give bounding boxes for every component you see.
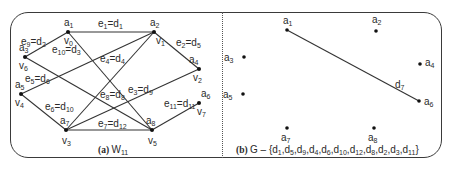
caption-left: (a) W11 xyxy=(98,144,128,156)
right-node-label-a1: a1 xyxy=(283,15,293,27)
node-label-a4: a4 xyxy=(189,54,199,66)
edge-label-e2: e2=d5 xyxy=(176,37,201,49)
node-label-a1: a1 xyxy=(64,17,74,29)
right-node-label-a6: a6 xyxy=(424,96,434,108)
node-a7 xyxy=(64,128,68,132)
node-alt-label-a3: v6 xyxy=(19,60,28,72)
edge-label-e5: e5=d6 xyxy=(25,73,50,85)
node-label-a8: a8 xyxy=(146,115,156,127)
edge-label-e11: e11=d11 xyxy=(164,98,196,110)
right-node-label-a3: a3 xyxy=(224,52,234,64)
right-node-label-a4: a4 xyxy=(425,57,435,69)
node-label-a6: a6 xyxy=(201,88,211,100)
node-a5 xyxy=(19,92,23,96)
node-a2 xyxy=(152,30,156,34)
right-node-label-a5: a5 xyxy=(223,89,233,101)
node-alt-label-a6: v7 xyxy=(197,106,206,118)
node-a4 xyxy=(197,67,201,71)
edge-label-e1: e1=d1 xyxy=(98,18,123,30)
node-a6 xyxy=(197,101,201,105)
node-alt-label-a7: v3 xyxy=(62,135,71,147)
edge-label-e8: e8=d8 xyxy=(100,89,125,101)
caption-right: (b) G – {d1,d5,d9,d4,d6,d10,d12,d8,d2,d3… xyxy=(236,144,419,156)
node-a1 xyxy=(66,30,70,34)
graph-diagram: a1v0a2v1a3v6a4v2a5v4a6v7a7v3a8v5 e1=d1e2… xyxy=(0,0,453,171)
edge-label-e3: e3=d9 xyxy=(128,84,153,96)
right-node-label-a2: a2 xyxy=(372,14,382,26)
node-alt-label-a8: v5 xyxy=(148,135,157,147)
node-a3 xyxy=(23,55,27,59)
captions: (a) W11(b) G – {d1,d5,d9,d4,d6,d10,d12,d… xyxy=(98,144,419,156)
node-alt-label-a2: v1 xyxy=(156,35,165,47)
figure-canvas: a1v0a2v1a3v6a4v2a5v4a6v7a7v3a8v5 e1=d1e2… xyxy=(0,0,453,171)
edge-label-right-d7: d7 xyxy=(395,79,405,91)
node-label-a5: a5 xyxy=(15,79,25,91)
right-node-a7 xyxy=(285,126,289,130)
edge-label-e4: e4=d4 xyxy=(100,53,125,65)
right-node-a1 xyxy=(285,28,289,32)
node-a8 xyxy=(150,128,154,132)
node-alt-label-a4: v2 xyxy=(193,72,202,84)
node-alt-label-a5: v4 xyxy=(15,97,24,109)
right-node-a4 xyxy=(418,62,422,66)
right-graph-edges: d7 xyxy=(287,30,419,101)
right-node-a2 xyxy=(374,29,378,33)
right-node-label-a8: a8 xyxy=(368,132,378,144)
edge-label-e7: e7=d12 xyxy=(98,118,127,130)
right-node-a8 xyxy=(372,126,376,130)
right-node-a3 xyxy=(242,55,246,59)
node-label-a7: a7 xyxy=(60,115,70,127)
edge-label-e9: e9=d2 xyxy=(21,36,46,48)
node-label-a2: a2 xyxy=(150,17,160,29)
edge-a1-a8 xyxy=(68,32,152,130)
left-edge-labels: e1=d1e2=d5e3=d9e4=d4e5=d6e6=d10e7=d12e8=… xyxy=(21,18,201,130)
right-node-a6 xyxy=(417,99,421,103)
edge-label-e6: e6=d10 xyxy=(45,101,74,113)
right-node-a5 xyxy=(241,92,245,96)
edge-label-e10: e10=d3 xyxy=(52,44,81,56)
right-graph-nodes: a1a2a3a4a5a6a7a8 xyxy=(223,14,435,144)
edge-right-a1-a6 xyxy=(287,30,419,101)
right-node-label-a7: a7 xyxy=(281,132,291,144)
